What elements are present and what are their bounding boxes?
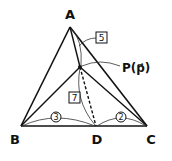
vertex-label-d: D [92,132,103,147]
ratio-dc-label: 2 [118,113,123,122]
vertex-label-c: C [146,132,156,147]
segment-pd-dashed [80,67,96,126]
ratio-arcs [22,28,146,126]
ratio-bd-label: 3 [53,113,58,122]
triangle-diagram: 5 7 3 2 A B D C P(p⃗) [0,0,172,161]
point-label-p: P(p⃗) [122,61,150,75]
ratio-ap-label: 5 [99,33,105,43]
ratio-pd-label: 7 [72,93,78,103]
vertex-label-a: A [65,7,75,22]
vertex-label-b: B [10,132,20,147]
